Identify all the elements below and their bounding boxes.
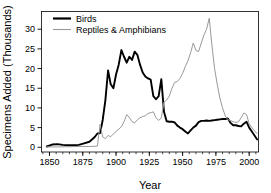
y-tick-label: 30 (25, 24, 35, 34)
x-tick-label: 2000 (239, 157, 259, 167)
y-tick-label: 20 (25, 64, 35, 74)
y-axis-title: Specimens Added (Thousands) (1, 5, 13, 158)
x-tick-label: 1925 (139, 157, 159, 167)
x-axis-title: Year (139, 179, 162, 191)
y-tick-label: 0 (30, 142, 35, 152)
legend-label-birds: Birds (76, 14, 97, 24)
y-tick-label: 10 (25, 103, 35, 113)
x-tick-label: 1850 (39, 157, 59, 167)
line-chart: 1850187519001925195019752000 05101520253… (0, 0, 271, 193)
chart-figure: 1850187519001925195019752000 05101520253… (0, 0, 271, 193)
x-tick-label: 1975 (206, 157, 226, 167)
x-tick-label: 1875 (73, 157, 93, 167)
x-tick-label: 1900 (106, 157, 126, 167)
y-tick-label: 15 (25, 83, 35, 93)
y-tick-label: 25 (25, 44, 35, 54)
legend-label-reptiles-amphibians: Reptiles & Amphibians (76, 25, 167, 35)
x-tick-label: 1950 (173, 157, 193, 167)
y-tick-label: 5 (30, 123, 35, 133)
